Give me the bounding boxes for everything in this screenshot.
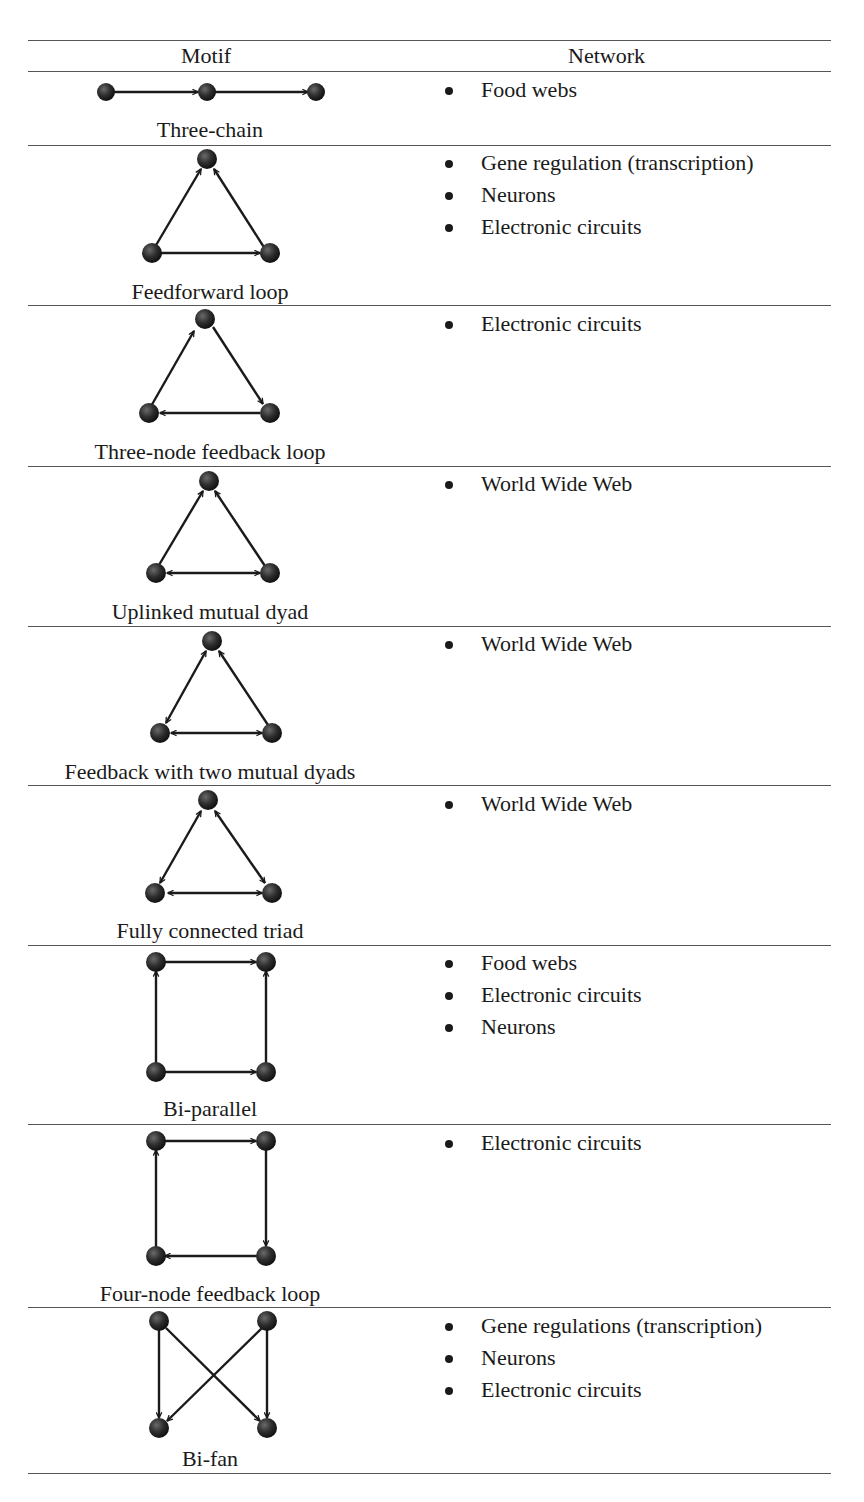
motif-label: Uplinked mutual dyad <box>0 599 420 625</box>
bullet-icon <box>445 224 453 232</box>
network-list: World Wide Web <box>440 628 632 660</box>
feedback-two-mutual-dyads-diagram <box>110 625 310 755</box>
network-list: Gene regulation (transcription) Neurons … <box>440 147 753 243</box>
bullet-icon <box>445 1024 453 1032</box>
network-item: Neurons <box>440 1342 762 1374</box>
three-node-feedback-loop-diagram <box>100 305 300 435</box>
network-item: Neurons <box>440 1011 642 1043</box>
network-list: Electronic circuits <box>440 1127 642 1159</box>
bullet-icon <box>445 1355 453 1363</box>
bi-fan-diagram <box>110 1306 310 1436</box>
motif-label: Bi-parallel <box>0 1096 420 1122</box>
bi-parallel-diagram <box>110 945 310 1085</box>
bullet-icon <box>445 992 453 1000</box>
network-item: Electronic circuits <box>440 1127 642 1159</box>
three-chain-diagram <box>90 72 330 112</box>
bullet-icon <box>445 1387 453 1395</box>
motif-label: Fully connected triad <box>0 918 420 944</box>
network-item: Neurons <box>440 179 753 211</box>
bullet-icon <box>445 160 453 168</box>
table-top-rule <box>28 40 831 41</box>
bullet-icon <box>445 321 453 329</box>
network-item: World Wide Web <box>440 628 632 660</box>
header-network: Network <box>568 43 645 69</box>
table-bottom-rule <box>28 1473 831 1474</box>
network-item: Electronic circuits <box>440 979 642 1011</box>
network-item: World Wide Web <box>440 788 632 820</box>
feedforward-loop-diagram <box>110 145 310 275</box>
motif-label: Three-node feedback loop <box>0 439 420 465</box>
motif-label: Bi-fan <box>0 1446 420 1472</box>
motif-label: Feedforward loop <box>0 279 420 305</box>
motif-label: Feedback with two mutual dyads <box>0 759 420 785</box>
bullet-icon <box>445 1140 453 1148</box>
network-list: World Wide Web <box>440 788 632 820</box>
header-motif: Motif <box>181 43 231 69</box>
motif-label: Three-chain <box>0 117 420 143</box>
network-list: Food webs Electronic circuits Neurons <box>440 947 642 1043</box>
network-item: Food webs <box>440 74 577 106</box>
network-item: World Wide Web <box>440 468 632 500</box>
fully-connected-triad-diagram <box>110 785 310 915</box>
network-item: Electronic circuits <box>440 1374 762 1406</box>
bullet-icon <box>445 960 453 968</box>
bullet-icon <box>445 87 453 95</box>
bullet-icon <box>445 192 453 200</box>
network-item: Food webs <box>440 947 642 979</box>
bullet-icon <box>445 801 453 809</box>
network-item: Gene regulations (transcription) <box>440 1310 762 1342</box>
network-list: World Wide Web <box>440 468 632 500</box>
network-item: Gene regulation (transcription) <box>440 147 753 179</box>
bullet-icon <box>445 641 453 649</box>
network-list: Food webs <box>440 74 577 106</box>
four-node-feedback-loop-diagram <box>110 1125 310 1275</box>
uplinked-mutual-dyad-diagram <box>110 465 310 595</box>
network-item: Electronic circuits <box>440 308 642 340</box>
network-list: Electronic circuits <box>440 308 642 340</box>
motif-label: Four-node feedback loop <box>0 1281 420 1307</box>
bullet-icon <box>445 1323 453 1331</box>
network-list: Gene regulations (transcription) Neurons… <box>440 1310 762 1406</box>
network-item: Electronic circuits <box>440 211 753 243</box>
bullet-icon <box>445 481 453 489</box>
